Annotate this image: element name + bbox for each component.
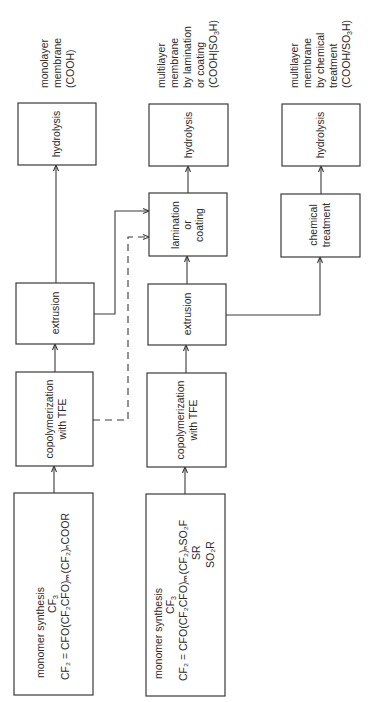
output-monolayer-membrane: monolayer membrane (COOH) [38, 38, 76, 88]
connector-extrusion2-chemical [226, 258, 320, 315]
copoly-2-label-line1: copolymerization [174, 380, 186, 459]
extrusion-1-label: extrusion [49, 292, 61, 335]
output-2-line2: membrane [168, 38, 180, 88]
output-2-line3: by lamination [181, 26, 193, 88]
copoly-2-label-line2: with TFE [187, 399, 199, 441]
monomer-1-title: monomer synthesis [34, 587, 46, 678]
output-2-line1: multilayer [155, 43, 167, 88]
output-3-line4: treatment [327, 44, 339, 88]
box-lamination-or-coating: lamination or coating [149, 193, 227, 256]
monomer-1-formula: CF₂ = CFO(CF₂CFO)ₘ(CF₂)ₙCOOR [59, 513, 71, 680]
extrusion-2-label: extrusion [181, 293, 193, 336]
output-1-line1: monolayer [38, 38, 50, 88]
monomer-2-alt-so2r: SO₂R [204, 541, 216, 568]
output-2-line4: or coating [194, 42, 206, 88]
chemical-label-line1: chemical [307, 204, 319, 245]
box-chemical-treatment: chemical treatment [281, 194, 360, 257]
output-3-line5: (COOH/SO3H) [340, 20, 353, 88]
process-flow-diagram: hydrolysis hydrolysis hydrolysis laminat… [0, 0, 374, 702]
connector-copoly1-lamination-dashed [93, 237, 149, 420]
output-3-line2: membrane [301, 38, 313, 88]
box-extrusion-1: extrusion [16, 283, 94, 344]
hydrolysis-3-label: hydrolysis [314, 112, 326, 159]
lamination-label-line1: lamination [169, 201, 181, 249]
box-hydrolysis-2: hydrolysis [149, 104, 228, 166]
copoly-1-label-line1: copolymerization [43, 379, 55, 458]
chemical-label-line2: treatment [320, 203, 332, 247]
box-copolymerization-2: copolymerization with TFE [147, 373, 226, 467]
box-monomer-synthesis-1: monomer synthesis CF3 CF₂ = CFO(CF₂CFO)ₘ… [14, 493, 93, 695]
box-monomer-synthesis-2: monomer synthesis CF3 CF₂ = CFO(CF₂CFO)ₘ… [146, 494, 225, 696]
box-extrusion-2: extrusion [148, 284, 226, 345]
lamination-label-line2: or [181, 220, 193, 230]
hydrolysis-2-label: hydrolysis [182, 112, 194, 159]
box-hydrolysis-1: hydrolysis [18, 103, 96, 165]
hydrolysis-1-label: hydrolysis [50, 111, 62, 158]
monomer-2-formula: CF₂ = CFO(CF₂CFO)ₘ(CF₂)ₙSO₂F [177, 520, 189, 681]
output-3-line1: multilayer [288, 43, 300, 88]
output-3-line3: by chemical [314, 33, 326, 88]
box-copolymerization-1: copolymerization with TFE [16, 372, 93, 466]
output-chemical-membrane: multilayer membrane by chemical treatmen… [288, 20, 353, 88]
box-hydrolysis-3: hydrolysis [282, 104, 360, 166]
connector-extrusion1-lamination [94, 211, 149, 314]
monomer-2-alt-sr: SR [190, 545, 202, 560]
copoly-1-label-line2: with TFE [56, 398, 68, 440]
monomer-2-title: monomer synthesis [152, 588, 164, 679]
lamination-label-line3: coating [193, 208, 205, 242]
output-1-line2: membrane [51, 38, 63, 88]
output-1-line3: (COOH) [64, 50, 76, 89]
output-2-line5: (COOH|SO3H) [207, 20, 220, 88]
output-lamination-membrane: multilayer membrane by lamination or coa… [155, 20, 220, 88]
